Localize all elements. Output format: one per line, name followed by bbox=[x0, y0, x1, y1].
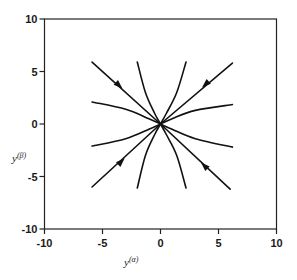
arrowhead-icon bbox=[200, 79, 211, 90]
x-tick-label: 5 bbox=[215, 237, 221, 249]
arrowhead-icon bbox=[116, 156, 127, 167]
y-axis-label: y(β) bbox=[11, 151, 27, 164]
x-tick-label: -5 bbox=[98, 237, 108, 249]
y-tick-label: -10 bbox=[22, 223, 38, 235]
x-tick-label: -10 bbox=[37, 237, 53, 249]
phase-portrait-chart: -10-50510-10-50510 y(β) y(α) bbox=[0, 0, 297, 280]
x-tick-label: 10 bbox=[270, 237, 282, 249]
y-tick-label: 5 bbox=[31, 66, 37, 78]
x-tick-label: 0 bbox=[157, 237, 163, 249]
trajectory-diag-upper-left bbox=[92, 62, 160, 124]
x-axis-label: y(α) bbox=[123, 255, 139, 268]
trajectory-diag-upper-right bbox=[161, 63, 233, 124]
trajectories bbox=[92, 62, 232, 189]
y-tick-label: -5 bbox=[28, 171, 38, 183]
trajectory-diag-lower-right bbox=[161, 124, 231, 189]
trajectory-diag-lower-left bbox=[92, 124, 160, 187]
y-tick-label: 0 bbox=[31, 118, 37, 130]
y-tick-label: 10 bbox=[25, 13, 37, 25]
